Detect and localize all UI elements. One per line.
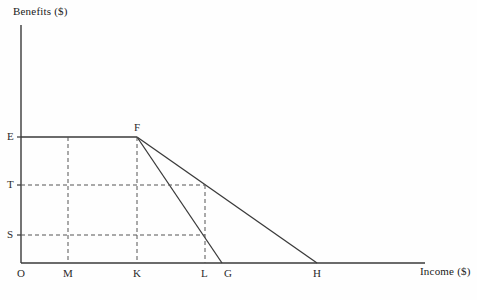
x-axis-title: Income ($): [420, 266, 471, 277]
x-tick-label-K: K: [133, 268, 141, 279]
x-tick-label-H: H: [313, 268, 321, 279]
taper-line-FG: [137, 137, 222, 263]
x-tick-label-O: O: [17, 268, 25, 279]
point-label-F: F: [134, 122, 140, 133]
y-axis-title: Benefits ($): [13, 6, 68, 17]
chart-figure: Benefits ($) Income ($) E T S O M K L G …: [0, 0, 477, 300]
chart-plot-area: [0, 0, 477, 300]
taper-line-FH: [137, 137, 317, 263]
x-tick-label-G: G: [224, 268, 232, 279]
x-tick-label-M: M: [63, 268, 73, 279]
y-tick-label-E: E: [7, 131, 14, 142]
y-tick-label-S: S: [7, 229, 13, 240]
x-tick-label-L: L: [201, 268, 208, 279]
y-tick-label-T: T: [7, 179, 14, 190]
